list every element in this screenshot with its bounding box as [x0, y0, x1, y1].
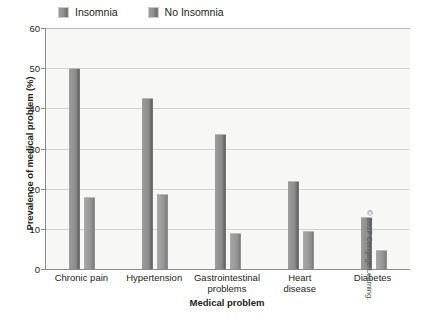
legend-label-insomnia: Insomnia: [75, 7, 118, 18]
bar-0-1[interactable]: [84, 197, 95, 269]
bar-0-0[interactable]: [69, 68, 80, 269]
bar-4-1[interactable]: [376, 250, 387, 269]
y-tick-label-30: 30: [0, 143, 40, 154]
y-tick-label-40: 40: [0, 103, 40, 114]
bar-group-3: [264, 28, 337, 269]
legend-label-no-insomnia: No Insomnia: [165, 7, 224, 18]
chart-legend: Insomnia No Insomnia: [45, 2, 385, 22]
x-tick-label-line: problems: [191, 283, 264, 294]
x-tick-label-line: Chronic pain: [45, 272, 118, 283]
x-tick-label-3: Heartdisease: [263, 272, 336, 294]
bar-3-1[interactable]: [303, 231, 314, 269]
y-tick-label-10: 10: [0, 223, 40, 234]
x-tick-label-line: Heart: [263, 272, 336, 283]
bar-2-1[interactable]: [230, 233, 241, 269]
legend-swatch-insomnia-icon: [58, 7, 69, 18]
bar-1-1[interactable]: [157, 194, 168, 269]
y-tick-label-0: 0: [0, 264, 40, 275]
bar-3-0[interactable]: [288, 181, 299, 269]
x-tick-label-line: Gastrointestinal: [191, 272, 264, 283]
plot-inner: [46, 28, 410, 269]
bar-group-0: [46, 28, 119, 269]
x-tick-label-1: Hypertension: [118, 272, 191, 283]
x-tick-label-2: Gastrointestinalproblems: [191, 272, 264, 294]
x-tick-label-line: disease: [263, 283, 336, 294]
copyright-notice: © 2017 Cengage Learning.: [365, 210, 374, 320]
x-tick-label-line: Hypertension: [118, 272, 191, 283]
legend-swatch-no-insomnia-icon: [148, 7, 159, 18]
legend-entry-insomnia: Insomnia: [58, 7, 118, 18]
legend-entry-no-insomnia: No Insomnia: [148, 7, 224, 18]
bar-2-0[interactable]: [215, 134, 226, 269]
x-axis-title: Medical problem: [45, 297, 409, 308]
bar-group-1: [119, 28, 192, 269]
bar-group-2: [192, 28, 265, 269]
bar-chart-figure: Insomnia No Insomnia Prevalence of medic…: [0, 0, 444, 320]
y-tick-label-50: 50: [0, 63, 40, 74]
plot-area: [45, 28, 410, 270]
y-tick-label-20: 20: [0, 183, 40, 194]
bar-1-0[interactable]: [142, 98, 153, 270]
y-tick-label-60: 60: [0, 23, 40, 34]
x-tick-label-0: Chronic pain: [45, 272, 118, 283]
